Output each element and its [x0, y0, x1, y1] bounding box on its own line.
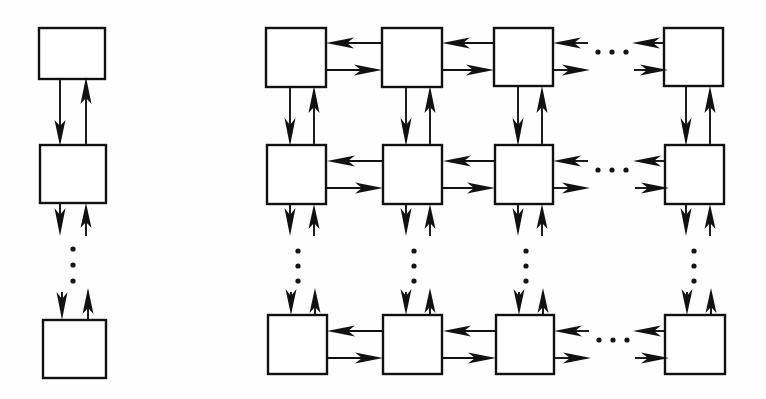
ellipsis-dot [595, 167, 600, 172]
ellipsis-dot [623, 49, 628, 54]
edge-arrow-down-stub [285, 204, 296, 236]
edge-arrow-down-stub [401, 289, 412, 315]
edge-arrow-down-stub [401, 204, 412, 236]
edge-arrow-up-stub [706, 288, 717, 315]
edge-arrow-left-stub [553, 38, 588, 49]
ellipsis-dot [691, 278, 696, 283]
node-box[interactable] [496, 315, 554, 374]
node-box[interactable] [268, 315, 327, 374]
vertical-ellipsis [70, 246, 75, 283]
node-box[interactable] [39, 28, 105, 79]
edge-arrow-up [705, 86, 716, 145]
ellipsis-dot [610, 337, 615, 342]
ellipsis-dot [70, 246, 75, 251]
edge-arrow-up-stub [538, 288, 549, 315]
edge-arrow-up-stub [425, 288, 436, 315]
ellipsis-dot [411, 263, 416, 268]
ellipsis-dot [295, 278, 300, 283]
node-box[interactable] [664, 28, 723, 86]
vertical-ellipsis [411, 248, 416, 283]
edge-arrow-up [537, 86, 548, 145]
horizontal-ellipsis [596, 337, 629, 342]
edge-arrow-up-stub [309, 204, 320, 236]
node-box[interactable] [665, 145, 724, 204]
ellipsis-dot [623, 167, 628, 172]
edge-arrow-down [513, 86, 524, 146]
ellipsis-dot [411, 278, 416, 283]
edge-arrow-left-stub [554, 326, 589, 337]
edge-arrow-down [681, 86, 692, 146]
ellipsis-dot [523, 263, 528, 268]
ellipsis-dot [70, 278, 75, 283]
edge-arrow-down [55, 79, 66, 146]
edge-arrow-up-stub [81, 203, 92, 236]
vertical-ellipsis [523, 248, 528, 283]
edge-arrow-left [443, 326, 496, 337]
edge-arrow-up [425, 86, 436, 145]
edge-arrow-left [326, 38, 382, 49]
horizontal-ellipsis [595, 49, 628, 54]
node-box[interactable] [382, 28, 442, 87]
edge-arrow-left-stub [633, 326, 665, 337]
edge-arrow-up [81, 77, 92, 145]
edge-arrow-right [327, 183, 383, 194]
node-box[interactable] [495, 145, 553, 204]
node-box[interactable] [43, 320, 106, 378]
edge-arrow-up-stub [83, 288, 94, 320]
ellipsis-dot [411, 248, 416, 253]
horizontal-ellipsis [595, 167, 628, 172]
edge-arrow-down-stub [513, 204, 524, 236]
edge-arrow-down-stub [286, 289, 297, 315]
edge-arrow-down-stub [57, 292, 68, 320]
edge-arrow-up-stub [705, 204, 716, 236]
edge-arrow-up-stub [537, 204, 548, 236]
edge-arrow-left [327, 326, 383, 337]
edge-arrow-down-stub [55, 203, 66, 236]
left-panel-linear-array [39, 28, 106, 378]
ellipsis-dot [609, 49, 614, 54]
topology-diagram [0, 0, 766, 399]
edge-arrow-right [326, 65, 382, 76]
ellipsis-dot [596, 337, 601, 342]
ellipsis-dot [70, 262, 75, 267]
ellipsis-dot [624, 337, 629, 342]
edge-arrow-right-stub [553, 183, 590, 194]
node-box[interactable] [383, 145, 442, 204]
edge-arrow-down [401, 87, 412, 146]
edge-arrow-left-stub [632, 38, 664, 49]
edge-arrow-left-stub [633, 156, 665, 167]
ellipsis-dot [523, 278, 528, 283]
edge-arrow-down-stub [682, 289, 693, 315]
ellipsis-dot [295, 263, 300, 268]
edge-arrow-down-stub [514, 289, 525, 315]
figure-canvas [0, 0, 766, 399]
edge-arrow-left [442, 38, 494, 49]
edge-arrow-right-stub [553, 65, 590, 76]
node-box[interactable] [383, 315, 442, 374]
edge-arrow-left [443, 156, 495, 167]
edge-arrow-right [442, 65, 494, 76]
vertical-ellipsis [295, 248, 300, 283]
node-box[interactable] [266, 28, 326, 87]
edge-arrow-left [327, 156, 383, 167]
ellipsis-dot [595, 49, 600, 54]
node-box[interactable] [40, 145, 106, 203]
ellipsis-dot [691, 263, 696, 268]
edge-arrow-right [443, 353, 496, 364]
node-box[interactable] [267, 145, 326, 204]
edge-arrow-right [327, 353, 383, 364]
ellipsis-dot [523, 248, 528, 253]
edge-arrow-left-stub [553, 156, 588, 167]
right-panel-mesh-array [266, 28, 725, 374]
edge-arrow-up-stub [425, 204, 436, 236]
node-box[interactable] [665, 315, 725, 374]
edge-arrow-right [443, 183, 495, 194]
node-box[interactable] [494, 28, 553, 86]
ellipsis-dot [691, 248, 696, 253]
edge-arrow-right-stub [554, 353, 591, 364]
edge-arrow-down-stub [681, 204, 692, 236]
edge-arrow-up [309, 86, 320, 145]
vertical-ellipsis [691, 248, 696, 283]
edge-arrow-down [285, 87, 296, 146]
edge-arrow-up-stub [310, 288, 321, 315]
